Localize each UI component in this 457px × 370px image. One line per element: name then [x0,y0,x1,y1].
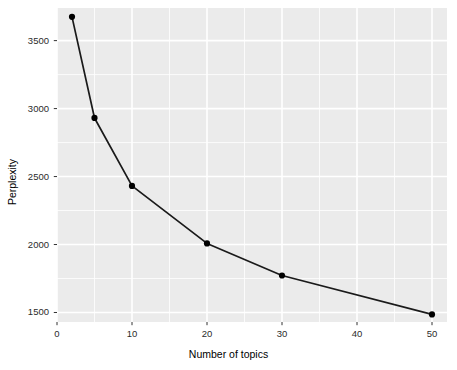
x-axis-tick-label: 50 [412,328,452,339]
data-point-marker [429,311,435,317]
y-axis-tick-label: 2000 [9,239,49,250]
x-axis-title: Number of topics [0,348,457,360]
x-axis-tick-label: 10 [112,328,152,339]
x-axis-tick-label: 30 [262,328,302,339]
y-axis-tick-label: 3500 [9,35,49,46]
y-axis-title: Perplexity [6,142,18,222]
y-axis-tick-label: 1500 [9,306,49,317]
data-point-marker [129,183,135,189]
data-point-marker [91,115,97,121]
data-point-marker [204,240,210,246]
data-point-marker [279,272,285,278]
data-point-marker [69,14,75,20]
y-axis-tick-label: 3000 [9,103,49,114]
perplexity-line-chart: Perplexity Number of topics 150020002500… [0,0,457,370]
plot-panel-background [57,8,447,322]
y-axis-tick-label: 2500 [9,171,49,182]
x-axis-tick-label: 0 [37,328,77,339]
x-axis-tick-label: 40 [337,328,377,339]
plot-canvas [0,0,457,370]
x-axis-tick-label: 20 [187,328,227,339]
